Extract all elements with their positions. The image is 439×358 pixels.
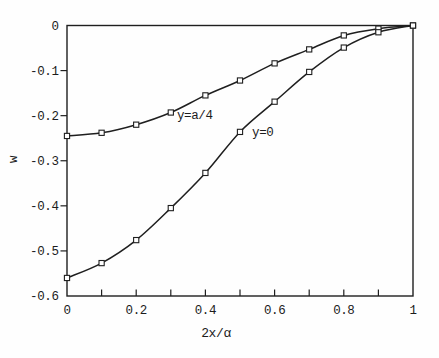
y-axis-tick-label: -0.6 bbox=[30, 290, 58, 304]
x-axis-tick-label: 0.4 bbox=[195, 304, 216, 318]
x-axis-tick-label: 0 bbox=[63, 304, 70, 318]
y-axis-tick-label: -0.5 bbox=[30, 245, 58, 259]
y-axis-tick-label: 0 bbox=[51, 20, 58, 34]
x-axis-tick-label: 0.2 bbox=[126, 304, 147, 318]
data-marker-y-0 bbox=[410, 23, 415, 28]
data-marker-y-0 bbox=[203, 170, 208, 175]
data-marker-y-0 bbox=[307, 69, 312, 74]
y-axis-title: w bbox=[7, 155, 21, 163]
data-marker-y-a4 bbox=[64, 133, 69, 138]
curve-y-0 bbox=[67, 26, 413, 278]
data-marker-y-0 bbox=[272, 99, 277, 104]
data-marker-y-a4 bbox=[99, 130, 104, 135]
data-marker-y-0 bbox=[134, 237, 139, 242]
x-axis-tick-label: 0.8 bbox=[333, 304, 354, 318]
x-axis-tick-label: 0.6 bbox=[264, 304, 285, 318]
line-chart-figure: 00.20.40.60.810-0.1-0.2-0.3-0.4-0.5-0.62… bbox=[0, 0, 439, 358]
y-axis-tick-label: -0.1 bbox=[30, 65, 58, 79]
data-marker-y-0 bbox=[376, 30, 381, 35]
curve-label: y=0 bbox=[252, 126, 273, 140]
y-axis-tick-label: -0.2 bbox=[30, 110, 58, 124]
data-marker-y-a4 bbox=[168, 110, 173, 115]
data-marker-y-a4 bbox=[272, 61, 277, 66]
data-marker-y-0 bbox=[168, 205, 173, 210]
y-axis-tick-label: -0.3 bbox=[30, 155, 58, 169]
data-marker-y-a4 bbox=[134, 122, 139, 127]
data-marker-y-0 bbox=[237, 129, 242, 134]
chart-canvas: 00.20.40.60.810-0.1-0.2-0.3-0.4-0.5-0.62… bbox=[0, 0, 439, 358]
data-marker-y-0 bbox=[99, 260, 104, 265]
x-axis-tick-label: 1 bbox=[409, 304, 416, 318]
data-marker-y-a4 bbox=[203, 93, 208, 98]
data-marker-y-0 bbox=[64, 275, 69, 280]
data-marker-y-a4 bbox=[341, 33, 346, 38]
curve-label: y=a/4 bbox=[177, 109, 213, 123]
data-marker-y-a4 bbox=[307, 47, 312, 52]
data-marker-y-0 bbox=[341, 45, 346, 50]
plot-frame bbox=[67, 26, 413, 297]
data-marker-y-a4 bbox=[237, 78, 242, 83]
x-axis-title: 2x/α bbox=[201, 326, 231, 341]
y-axis-tick-label: -0.4 bbox=[30, 200, 58, 214]
